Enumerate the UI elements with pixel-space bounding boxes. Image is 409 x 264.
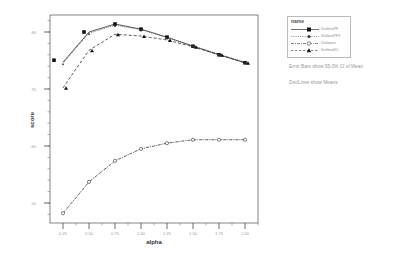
- x-tick-label: 0.25: [59, 231, 68, 236]
- x-tick-label: 1.00: [137, 231, 146, 236]
- data-point: [88, 33, 90, 35]
- legend-label: DistlessKC: [321, 48, 339, 52]
- legend-label: Distloose: [321, 41, 336, 45]
- data-point: [191, 138, 194, 141]
- data-point: [52, 58, 56, 62]
- data-point: [142, 34, 146, 38]
- data-point: [64, 86, 68, 90]
- series-distlesspf: [52, 22, 247, 64]
- dashed-triangle-marker-icon: [291, 47, 321, 54]
- x-axis-title: alpha: [146, 239, 162, 245]
- data-point: [62, 63, 64, 65]
- legend-item-distloose: Distloose: [291, 40, 349, 47]
- x-tick-label: 0.75: [111, 231, 120, 236]
- data-point: [82, 30, 86, 34]
- series-distloose: [61, 138, 246, 215]
- data-point: [165, 142, 168, 145]
- error-bars-note: Error Bars show 95.0% CI of Mean: [289, 64, 363, 69]
- x-tick-label: 1.75: [215, 231, 224, 236]
- y-axis-title: score: [29, 111, 35, 128]
- series-distlesskc: [63, 33, 250, 90]
- data-point: [140, 30, 142, 32]
- data-point: [217, 138, 220, 141]
- y-tick-label: .50: [30, 201, 36, 206]
- data-point: [61, 212, 64, 215]
- legend: name DistlessPF DistlessPF2 Distloose Di…: [287, 16, 351, 58]
- x-tick-label: 1.50: [189, 231, 198, 236]
- data-point: [139, 147, 142, 150]
- series-group: [52, 22, 250, 215]
- legend-item-distlesspf: DistlessPF: [291, 26, 349, 33]
- x-axis: 0.250.500.751.001.251.501.752.00: [59, 223, 258, 236]
- dashdot-diamond-marker-icon: [291, 40, 321, 47]
- legend-item-distlesspf2: DistlessPF2: [291, 33, 349, 40]
- series-distlesspf2: [62, 25, 246, 65]
- legend-label: DistlessPF2: [321, 34, 340, 38]
- y-tick-label: .80: [30, 30, 36, 35]
- legend-item-distlesskc: DistlessKC: [291, 47, 349, 54]
- data-point: [243, 138, 246, 141]
- data-point: [244, 62, 246, 64]
- y-tick-label: .70: [30, 87, 36, 92]
- data-point: [114, 25, 116, 27]
- dotted-circle-marker-icon: [291, 33, 321, 40]
- y-tick-label: .60: [30, 144, 36, 149]
- x-tick-label: 2.00: [241, 231, 250, 236]
- x-tick-label: 1.25: [163, 231, 172, 236]
- data-point: [113, 159, 116, 162]
- data-point: [166, 38, 168, 40]
- data-point: [87, 180, 90, 183]
- legend-label: DistlessPF: [321, 27, 338, 31]
- legend-title: name: [291, 18, 304, 24]
- solid-square-marker-icon: [291, 26, 321, 33]
- dot-lines-note: Dot/Lines show Means: [289, 80, 338, 85]
- x-tick-label: 0.50: [85, 231, 94, 236]
